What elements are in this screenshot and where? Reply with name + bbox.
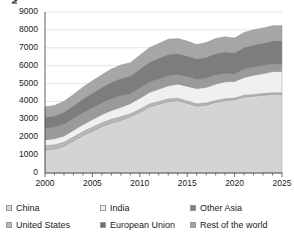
legend-row: United StatesEuropean UnionRest of the w…	[0, 220, 294, 236]
chart-canvas	[0, 0, 294, 192]
legend-label: China	[16, 203, 40, 213]
legend-item-rest-of-the-world[interactable]: Rest of the world	[190, 220, 268, 230]
legend-swatch-icon	[100, 205, 106, 211]
legend-label: Other Asia	[200, 203, 242, 213]
x-tick-label: 2025	[267, 179, 294, 188]
legend-swatch-icon	[6, 205, 12, 211]
legend-swatch-icon	[190, 205, 196, 211]
legend-label: United States	[16, 220, 70, 230]
x-tick-label: 2010	[125, 179, 155, 188]
y-tick-label: 4000	[8, 96, 38, 105]
legend-swatch-icon	[190, 222, 196, 228]
x-axis-ticks	[45, 173, 282, 177]
chart-legend: ChinaIndiaOther AsiaUnited StatesEuropea…	[0, 203, 294, 245]
legend-item-european-union[interactable]: European Union	[100, 220, 175, 230]
legend-item-china[interactable]: China	[6, 203, 40, 213]
legend-item-other-asia[interactable]: Other Asia	[190, 203, 242, 213]
legend-label: Rest of the world	[200, 220, 268, 230]
legend-item-united-states[interactable]: United States	[6, 220, 70, 230]
legend-row: ChinaIndiaOther Asia	[0, 203, 294, 219]
y-tick-label: 6000	[8, 61, 38, 70]
x-tick-label: 2020	[220, 179, 250, 188]
legend-item-india[interactable]: India	[100, 203, 130, 213]
x-tick-label: 2005	[77, 179, 107, 188]
y-tick-label: 8000	[8, 25, 38, 34]
y-tick-label: 2000	[8, 132, 38, 141]
y-tick-label: 1000	[8, 150, 38, 159]
x-tick-label: 2000	[30, 179, 60, 188]
y-tick-label: 3000	[8, 114, 38, 123]
plot-area: 9000800070006000500040003000200010000 20…	[0, 0, 294, 192]
stacked-area-chart-figure: Mt 9000800070006000500040003000200010000…	[0, 0, 294, 245]
legend-label: India	[110, 203, 130, 213]
y-tick-label: 7000	[8, 43, 38, 52]
x-tick-label: 2015	[172, 179, 202, 188]
legend-swatch-icon	[100, 222, 106, 228]
legend-swatch-icon	[6, 222, 12, 228]
y-tick-label: 9000	[8, 7, 38, 16]
y-tick-label: 5000	[8, 79, 38, 88]
y-tick-label: 0	[8, 168, 38, 177]
legend-label: European Union	[110, 220, 175, 230]
